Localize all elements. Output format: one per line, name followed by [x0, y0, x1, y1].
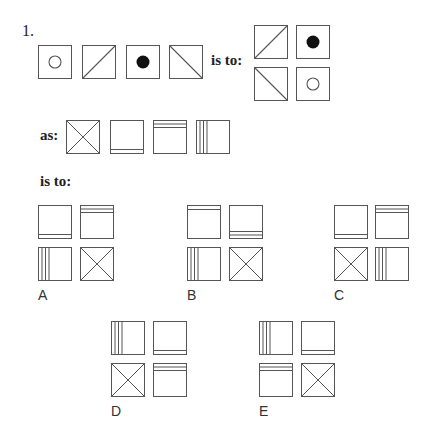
option-b[interactable]: B: [187, 205, 264, 310]
option-a-tile-tl: [38, 205, 72, 239]
option-d-tile-tr: [153, 321, 187, 355]
option-c-label: C: [334, 287, 344, 303]
option-a-tile-br: [80, 247, 114, 281]
phrase-as: as:: [40, 127, 58, 144]
cross-x-icon: [112, 364, 144, 396]
option-b-label: B: [187, 287, 196, 303]
option-e-label: E: [259, 403, 268, 419]
left-triple-line-icon: [376, 248, 408, 280]
option-d-tile-tl: [111, 321, 145, 355]
option-b-tile-br: [229, 247, 263, 281]
top-double-line-icon: [81, 206, 113, 238]
stimulus-tile-3: [126, 45, 160, 79]
left-triple-line-icon: [112, 322, 144, 354]
diagonal-up-icon: [255, 26, 287, 58]
phrase-is-to: is to:: [211, 52, 242, 69]
analogy-tile-3: [153, 120, 187, 154]
stimulus-tile-2: [82, 45, 116, 79]
option-e-tile-br: [301, 363, 335, 397]
option-d-label: D: [111, 403, 121, 419]
left-triple-line-icon: [197, 121, 229, 153]
stimulus-tile-1: [38, 45, 72, 79]
bottom-line-icon: [111, 121, 143, 153]
option-b-tile-bl: [187, 247, 221, 281]
top-line-icon: [188, 206, 220, 238]
question-number: 1.: [22, 22, 34, 40]
option-e-tile-bl: [259, 363, 293, 397]
analogy-tile-1: [66, 120, 100, 154]
stimulus-grid-tl: [254, 25, 288, 59]
option-c-tile-br: [375, 247, 409, 281]
filled-circle-icon: [127, 46, 159, 78]
option-c-tile-bl: [334, 247, 368, 281]
option-a[interactable]: A: [38, 205, 115, 310]
diagonal-down-icon: [255, 68, 287, 100]
option-b-tile-tl: [187, 205, 221, 239]
top-double-line-icon: [154, 121, 186, 153]
option-d[interactable]: D: [111, 321, 189, 426]
phrase-is-to-2: is to:: [40, 173, 71, 190]
option-e-tile-tl: [259, 321, 293, 355]
option-c-tile-tr: [375, 205, 409, 239]
diagonal-up-icon: [83, 46, 115, 78]
open-circle-icon: [297, 68, 329, 100]
option-a-tile-bl: [38, 247, 72, 281]
filled-circle-icon: [297, 26, 329, 58]
bottom-line-icon: [154, 322, 186, 354]
option-c[interactable]: C: [334, 205, 411, 310]
top-double-line-icon: [260, 364, 292, 396]
top-double-line-icon: [154, 364, 186, 396]
cross-x-icon: [335, 248, 367, 280]
stimulus-tile-4: [169, 45, 203, 79]
top-double-line-icon: [376, 206, 408, 238]
cross-x-icon: [81, 248, 113, 280]
bottom-double-line-icon: [230, 206, 262, 238]
diagonal-down-icon: [170, 46, 202, 78]
bottom-line-icon: [335, 206, 367, 238]
option-a-tile-tr: [80, 205, 114, 239]
cross-x-icon: [230, 248, 262, 280]
bottom-line-icon: [39, 206, 71, 238]
left-triple-line-icon: [188, 248, 220, 280]
bottom-line-icon: [302, 322, 334, 354]
analogy-tile-4: [196, 120, 230, 154]
stimulus-grid-br: [296, 67, 330, 101]
option-e-tile-tr: [301, 321, 335, 355]
left-triple-line-icon: [39, 248, 71, 280]
option-e[interactable]: E: [259, 321, 337, 426]
option-d-tile-bl: [111, 363, 145, 397]
option-c-tile-tl: [334, 205, 368, 239]
analogy-tile-2: [110, 120, 144, 154]
option-d-tile-br: [153, 363, 187, 397]
left-triple-line-icon: [260, 322, 292, 354]
stimulus-grid-tr: [296, 25, 330, 59]
cross-x-icon: [302, 364, 334, 396]
option-a-label: A: [38, 287, 47, 303]
stimulus-grid-bl: [254, 67, 288, 101]
option-b-tile-tr: [229, 205, 263, 239]
open-circle-icon: [39, 46, 71, 78]
cross-x-icon: [67, 121, 99, 153]
